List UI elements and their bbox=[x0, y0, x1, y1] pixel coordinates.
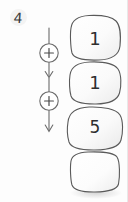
block-value: 1 bbox=[62, 58, 128, 106]
block-item-answer-slot[interactable] bbox=[62, 148, 128, 200]
plus-operator-2-shape bbox=[40, 92, 58, 110]
block-value-text: 5 bbox=[90, 117, 101, 137]
block-item[interactable]: 5 bbox=[62, 102, 128, 152]
block-value-text: 1 bbox=[89, 28, 100, 49]
problem-number: 4 bbox=[6, 6, 30, 30]
problem-number-label: 4 bbox=[5, 6, 31, 30]
operator-chain bbox=[33, 26, 65, 138]
block-value bbox=[62, 148, 128, 200]
block-item[interactable]: 1 bbox=[62, 58, 128, 106]
block-value: 5 bbox=[62, 102, 128, 152]
block-value-text: 1 bbox=[89, 72, 100, 93]
block-item[interactable]: 1 bbox=[62, 14, 128, 62]
block-stack: 1 1 bbox=[62, 14, 128, 196]
block-value: 1 bbox=[62, 14, 128, 62]
worksheet-canvas: 4 bbox=[0, 0, 128, 202]
plus-operator-1-shape bbox=[40, 44, 58, 62]
